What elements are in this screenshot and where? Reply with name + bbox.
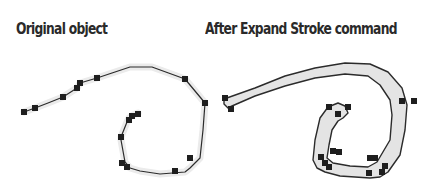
anchor-point-icon bbox=[187, 155, 193, 161]
original-path-halo bbox=[24, 67, 205, 174]
original-anchor-points bbox=[21, 75, 208, 174]
anchor-point-icon bbox=[129, 113, 135, 119]
anchor-point-icon bbox=[326, 164, 332, 170]
anchor-point-icon bbox=[379, 169, 385, 175]
anchor-point-icon bbox=[326, 104, 332, 110]
anchor-point-icon bbox=[366, 170, 372, 176]
anchor-point-icon bbox=[94, 75, 100, 81]
anchor-point-icon bbox=[336, 149, 342, 155]
anchor-point-icon bbox=[330, 148, 336, 154]
anchor-point-icon bbox=[335, 111, 341, 117]
anchor-point-icon bbox=[382, 163, 388, 169]
original-object bbox=[21, 67, 208, 174]
anchor-point-icon bbox=[367, 155, 378, 161]
anchor-point-icon bbox=[228, 106, 234, 112]
anchor-point-icon bbox=[77, 80, 83, 86]
anchor-point-icon bbox=[318, 154, 324, 160]
anchor-point-icon bbox=[399, 98, 405, 104]
anchor-point-icon bbox=[118, 134, 124, 140]
anchor-point-icon bbox=[411, 98, 417, 104]
anchor-point-icon bbox=[32, 105, 38, 111]
illustration-canvas bbox=[0, 0, 441, 183]
anchor-point-icon bbox=[21, 109, 27, 115]
expanded-stroke-object bbox=[222, 63, 417, 178]
anchor-point-icon bbox=[202, 100, 208, 106]
anchor-point-icon bbox=[172, 168, 178, 174]
expanded-outline bbox=[224, 63, 407, 178]
anchor-point-icon bbox=[135, 111, 141, 117]
anchor-point-icon bbox=[124, 164, 130, 170]
original-path bbox=[24, 67, 205, 174]
anchor-point-icon bbox=[182, 76, 188, 82]
anchor-point-icon bbox=[345, 104, 351, 110]
anchor-point-icon bbox=[60, 94, 66, 100]
anchor-point-icon bbox=[222, 95, 228, 101]
